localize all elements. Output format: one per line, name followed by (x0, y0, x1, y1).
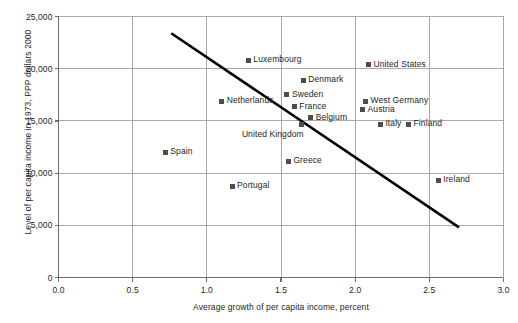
data-point-marker (308, 115, 313, 120)
data-point-marker (436, 178, 441, 183)
data-point-marker (163, 150, 168, 155)
y-axis-tick-label: 0 (48, 273, 53, 283)
y-axis-tick-label: 5,000 (31, 220, 53, 230)
x-axis-title: Average growth of per capita income, per… (58, 302, 504, 312)
data-point-label: Italy (385, 119, 401, 128)
data-point-label: Finland (414, 119, 443, 128)
x-axis-tick-label: 1.5 (261, 285, 301, 295)
x-axis-tick-label: 0.5 (113, 285, 153, 295)
data-point-marker (284, 92, 289, 97)
data-point-label: France (299, 102, 326, 111)
data-point-marker (301, 78, 306, 83)
x-axis-tick-label: 2.5 (409, 285, 449, 295)
plot-area-svg (0, 0, 518, 323)
y-axis-title: Level of per capita income in 1973, PPP … (23, 27, 33, 237)
data-point-label: Ireland (443, 175, 470, 184)
data-point-marker (286, 159, 291, 164)
x-axis-tick-label: 1.0 (187, 285, 227, 295)
x-axis-tick-label: 3.0 (484, 285, 518, 295)
data-point-label: Spain (170, 147, 192, 156)
data-point-marker (219, 99, 224, 104)
data-point-label: United Kingdom (242, 130, 304, 139)
data-point-label: Austria (368, 105, 395, 114)
data-point-marker (299, 122, 304, 127)
data-point-label: Greece (293, 156, 321, 165)
y-axis-tick-label: 25,000 (26, 12, 53, 22)
data-point-label: Belgium (316, 113, 347, 122)
data-point-marker (366, 62, 371, 67)
data-point-marker (406, 122, 411, 127)
data-point-marker (363, 99, 368, 104)
data-point-label: Sweden (292, 90, 323, 99)
data-point-label: Portugal (237, 181, 269, 190)
data-point-label: United States (374, 60, 426, 69)
data-point-marker (230, 184, 235, 189)
x-axis-tick-label: 0.0 (39, 285, 79, 295)
data-point-marker (292, 104, 297, 109)
data-point-label: Luxembourg (253, 55, 301, 64)
data-point-label: Denmark (308, 75, 343, 84)
data-point-marker (360, 107, 365, 112)
x-axis-tick-label: 2.0 (335, 285, 375, 295)
data-point-marker (378, 122, 383, 127)
data-point-marker (246, 58, 251, 63)
scatter-chart-figure: 05,00010,00015,00020,00025,000 0.00.51.0… (0, 0, 518, 323)
data-point-label: Netherlands (227, 96, 274, 105)
